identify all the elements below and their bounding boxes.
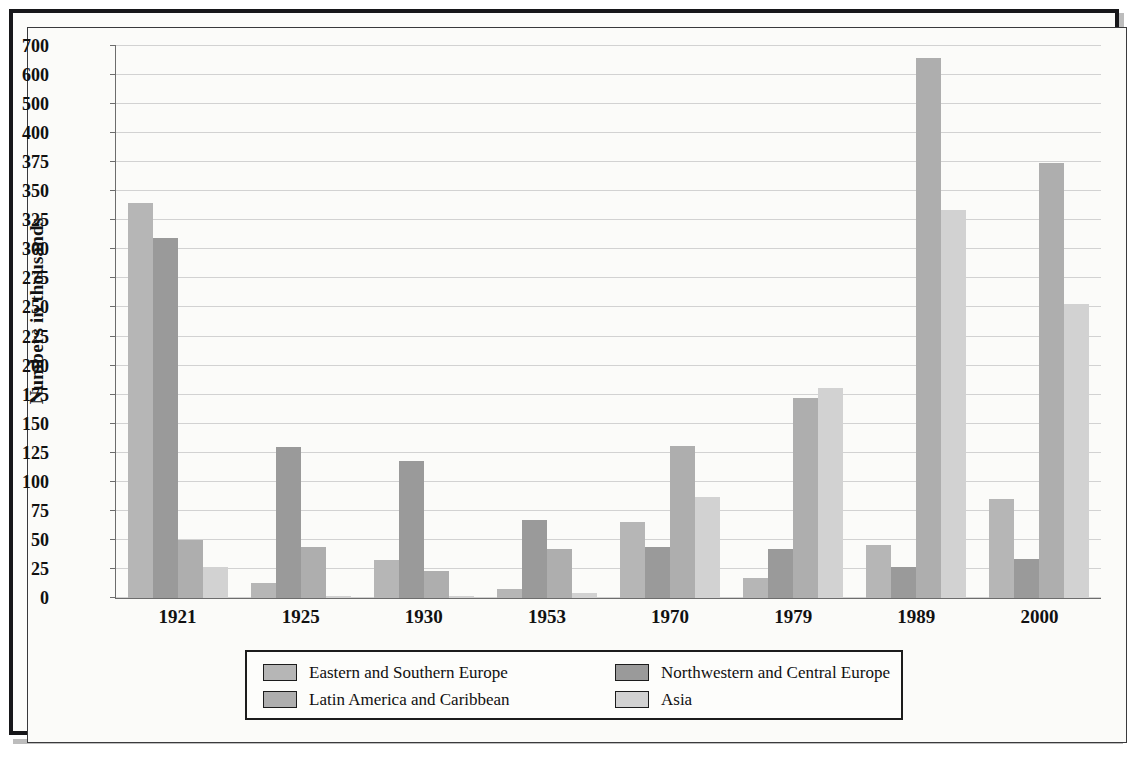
bar bbox=[301, 547, 326, 598]
legend-entry: Northwestern and Central Europe bbox=[615, 659, 895, 686]
y-axis-tick-label: 350 bbox=[0, 182, 49, 200]
bar-group bbox=[239, 46, 362, 598]
legend-column-right: Northwestern and Central Europe Asia bbox=[615, 659, 895, 713]
x-axis-tick-label: 1979 bbox=[732, 606, 855, 628]
plot-area: 19211925193019531970197919892000 bbox=[115, 46, 1101, 599]
y-axis-tick-label: 50 bbox=[0, 531, 49, 549]
legend-swatch-icon bbox=[615, 691, 649, 708]
x-axis-tick-label: 1925 bbox=[239, 606, 362, 628]
y-axis-tick-label: 700 bbox=[0, 37, 49, 55]
bar bbox=[916, 58, 941, 598]
y-axis-tick-label: 100 bbox=[0, 473, 49, 491]
bar bbox=[866, 545, 891, 598]
bar bbox=[572, 593, 597, 598]
bar bbox=[670, 446, 695, 598]
y-axis-tick-label: 150 bbox=[0, 415, 49, 433]
y-axis-tick-label: 25 bbox=[0, 560, 49, 578]
y-axis-tick-label: 300 bbox=[0, 240, 49, 258]
y-axis-tick-label: 75 bbox=[0, 502, 49, 520]
bar bbox=[497, 589, 522, 598]
bar bbox=[1039, 163, 1064, 598]
bar-group bbox=[732, 46, 855, 598]
y-axis-tick-label: 200 bbox=[0, 357, 49, 375]
bar-group bbox=[362, 46, 485, 598]
bar bbox=[128, 203, 153, 598]
bar bbox=[695, 497, 720, 598]
legend-entry: Asia bbox=[615, 686, 895, 713]
legend-column-left: Eastern and Southern Europe Latin Americ… bbox=[263, 659, 615, 713]
x-axis-tick-label: 1953 bbox=[485, 606, 608, 628]
y-axis-tick-label: 500 bbox=[0, 95, 49, 113]
bar bbox=[374, 560, 399, 598]
bar-group bbox=[485, 46, 608, 598]
bar bbox=[178, 540, 203, 598]
chart-page: Numbers in thousands 0255075100125150175… bbox=[0, 0, 1142, 762]
legend-swatch-icon bbox=[263, 691, 297, 708]
x-axis-tick-label: 2000 bbox=[978, 606, 1101, 628]
legend-entry: Eastern and Southern Europe bbox=[263, 659, 615, 686]
y-axis-tick-label: 225 bbox=[0, 328, 49, 346]
y-axis-tick-label: 375 bbox=[0, 153, 49, 171]
bar bbox=[276, 447, 301, 598]
bar bbox=[818, 388, 843, 598]
y-axis-tick-label: 325 bbox=[0, 211, 49, 229]
y-axis-tick-label: 125 bbox=[0, 444, 49, 462]
bar bbox=[424, 571, 449, 598]
y-axis-tick-label: 0 bbox=[0, 589, 49, 607]
legend-swatch-icon bbox=[615, 664, 649, 681]
bar bbox=[153, 238, 178, 598]
chart-legend: Eastern and Southern Europe Latin Americ… bbox=[245, 650, 903, 720]
legend-label: Asia bbox=[661, 690, 692, 710]
bar bbox=[941, 210, 966, 598]
bar-group bbox=[978, 46, 1101, 598]
bar bbox=[1064, 304, 1089, 598]
y-axis-tick-label: 175 bbox=[0, 386, 49, 404]
bar bbox=[768, 549, 793, 598]
bar bbox=[399, 461, 424, 598]
x-axis-tick-label: 1921 bbox=[116, 606, 239, 628]
bar-group bbox=[116, 46, 239, 598]
bar bbox=[547, 549, 572, 598]
y-axis-tick-label: 600 bbox=[0, 66, 49, 84]
bar bbox=[743, 578, 768, 598]
bar bbox=[793, 398, 818, 598]
bar bbox=[645, 547, 670, 598]
x-axis-tick-label: 1930 bbox=[362, 606, 485, 628]
y-axis-tick-label: 275 bbox=[0, 269, 49, 287]
y-axis-tick-label: 250 bbox=[0, 298, 49, 316]
bar bbox=[620, 522, 645, 598]
y-axis-tick-label: 400 bbox=[0, 124, 49, 142]
bar bbox=[989, 499, 1014, 598]
legend-swatch-icon bbox=[263, 664, 297, 681]
bar bbox=[1014, 559, 1039, 599]
legend-label: Eastern and Southern Europe bbox=[309, 663, 508, 683]
bar bbox=[522, 520, 547, 598]
bar-group bbox=[609, 46, 732, 598]
legend-label: Northwestern and Central Europe bbox=[661, 663, 890, 683]
x-axis-tick-label: 1989 bbox=[855, 606, 978, 628]
bar bbox=[251, 583, 276, 598]
x-axis-tick-label: 1970 bbox=[609, 606, 732, 628]
bar bbox=[326, 596, 351, 598]
legend-entry: Latin America and Caribbean bbox=[263, 686, 615, 713]
legend-label: Latin America and Caribbean bbox=[309, 690, 510, 710]
bar bbox=[203, 567, 228, 598]
bar bbox=[449, 596, 474, 598]
bar-group bbox=[855, 46, 978, 598]
bar bbox=[891, 567, 916, 598]
